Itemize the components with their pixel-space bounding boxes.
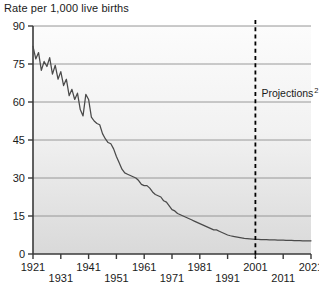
x-tick-label: 1921: [21, 261, 45, 273]
y-tick-label: 15: [13, 210, 25, 222]
x-tick-label: 2011: [271, 272, 295, 284]
y-tick-label: 0: [19, 248, 25, 260]
chart-plot: 0153045607590 19211931194119511961197119…: [0, 0, 319, 285]
x-tick-label: 1931: [49, 272, 73, 284]
y-tick-label: 90: [13, 20, 25, 32]
y-tick-label: 30: [13, 172, 25, 184]
x-axis-labels: 1921193119411951196119711981199120012011…: [21, 261, 319, 284]
x-tick-label: 1941: [76, 261, 100, 273]
projections-superscript: 2: [314, 86, 318, 95]
x-tick-label: 1991: [215, 272, 239, 284]
y-tick-label: 60: [13, 96, 25, 108]
chart-container: Rate per 1,000 live births 0153045607590…: [0, 0, 319, 285]
projections-label: Projections: [261, 87, 313, 99]
y-axis-labels: 0153045607590: [13, 20, 25, 260]
x-tick-label: 1951: [104, 272, 128, 284]
x-tick-label: 1961: [132, 261, 156, 273]
x-tick-label: 1981: [188, 261, 212, 273]
y-tick-label: 45: [13, 134, 25, 146]
x-tick-label: 2001: [243, 261, 267, 273]
x-tick-label: 2021: [299, 261, 319, 273]
x-tick-label: 1971: [160, 272, 184, 284]
y-tick-label: 75: [13, 58, 25, 70]
